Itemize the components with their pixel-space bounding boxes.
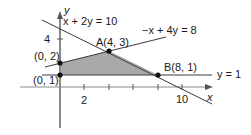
point-label-B: B(8, 1) [164, 61, 197, 73]
point-B [155, 72, 160, 77]
line-label-x-plus-2y: x + 2y = 10 [63, 15, 117, 27]
x-axis-arrow-icon [205, 84, 213, 90]
point-label-A: A(4, 3) [96, 36, 129, 48]
point-label-0-1: (0, 1) [33, 74, 59, 86]
lp-diagram: y x 4 2 10 x + 2y = 10 −x + 4y = 8 y = 1… [0, 0, 251, 135]
x-axis-label: x [206, 91, 213, 103]
point-A [106, 48, 111, 53]
point-label-0-2: (0, 2) [34, 50, 60, 62]
line-label-y-equals-1: y = 1 [217, 68, 241, 80]
x-tick-label-10: 10 [176, 93, 188, 105]
y-tick-label-4: 4 [44, 33, 50, 45]
x-tick-label-2: 2 [81, 94, 87, 106]
line-label-neg-x-plus-4y: −x + 4y = 8 [142, 24, 197, 36]
feasible-region [60, 51, 158, 75]
